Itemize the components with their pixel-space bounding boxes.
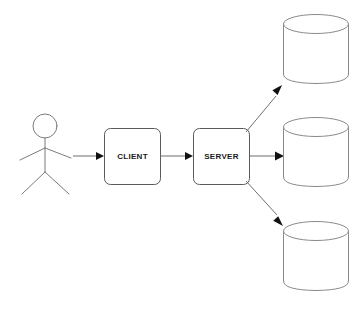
- connector-server-to-database-1: [246, 85, 282, 132]
- datastore-database-2[interactable]: [284, 118, 349, 187]
- client-label: CLIENT: [117, 152, 148, 161]
- stick-figure-icon[interactable]: [20, 114, 71, 194]
- database-3-top-shape: [284, 222, 349, 241]
- database-1-top-shape: [284, 15, 349, 34]
- stick-figure-left-arm-icon: [20, 148, 45, 160]
- datastore-database-3[interactable]: [284, 222, 349, 291]
- node-server[interactable]: SERVER: [194, 129, 250, 185]
- server-label: SERVER: [204, 152, 239, 161]
- arrow-head-icon: [185, 152, 193, 160]
- arrow-head-icon: [273, 216, 283, 226]
- stick-figure-right-leg-icon: [45, 172, 69, 194]
- stick-figure-head-icon: [33, 114, 57, 138]
- datastore-database-1[interactable]: [284, 15, 349, 84]
- diagram-canvas: CLIENT SERVER: [0, 0, 362, 310]
- stick-figure-left-leg-icon: [22, 172, 45, 194]
- node-client[interactable]: CLIENT: [105, 129, 161, 185]
- arrow-head-icon: [272, 85, 282, 95]
- connector-server-to-database-3: [246, 181, 283, 226]
- database-2-top-shape: [284, 118, 349, 137]
- architecture-diagram: CLIENT SERVER: [0, 0, 362, 310]
- connector-actor-to-client: [73, 152, 104, 160]
- connector-server-to-database-2: [250, 152, 284, 161]
- stick-figure-right-arm-icon: [45, 148, 71, 158]
- arrow-head-icon: [275, 152, 284, 161]
- connector-client-to-server: [161, 152, 194, 160]
- arrow-head-icon: [96, 152, 104, 160]
